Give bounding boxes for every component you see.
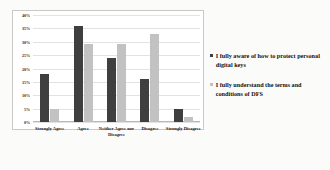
y-axis-tick-label: 10% [22,94,30,98]
bar-group: Agree [66,15,99,122]
legend-swatch-icon [210,54,213,57]
bar [107,58,116,122]
bar-group: Strongly Disagree [167,15,200,122]
y-axis-tick-label: 25% [22,54,30,58]
legend-label: I fully aware of how to protect personal… [216,52,326,70]
legend-label: I fully understand the terms and conditi… [216,81,326,99]
legend-swatch-icon [210,83,213,86]
bar-group: Neither Agree nor Disagree [100,15,133,122]
bar-group: Strongly Agree [33,15,66,122]
bar [150,34,159,122]
bar-chart-figure: 40%35%30%25%20%15%10%5%0% Strongly Agree… [0,0,330,170]
legend-entry[interactable]: I fully understand the terms and conditi… [210,81,326,99]
y-axis-tick-label: 0% [24,121,30,125]
bar [184,117,193,122]
legend-entry[interactable]: I fully aware of how to protect personal… [210,52,326,70]
bar-groups: Strongly AgreeAgreeNeither Agree nor Dis… [33,15,200,122]
y-axis-tick-label: 30% [22,41,30,45]
bar [40,74,49,122]
y-axis-tick-label: 40% [22,14,30,18]
y-axis-tick-label: 20% [22,67,30,71]
bar [174,109,183,122]
y-axis-tick-label: 35% [22,27,30,31]
plot-area: 40%35%30%25%20%15%10%5%0% Strongly Agree… [33,15,200,122]
y-axis-tick-label: 5% [24,108,30,112]
bar [140,79,149,122]
bar [50,109,59,122]
bar-group: Disagree [133,15,166,122]
bar [84,44,93,122]
x-axis-tick-label: Strongly Disagree [162,126,204,132]
chart-legend: I fully aware of how to protect personal… [210,52,326,110]
y-axis-tick-label: 15% [22,81,30,85]
bar [117,44,126,122]
gridline: 0% [33,122,200,123]
bar [74,26,83,122]
